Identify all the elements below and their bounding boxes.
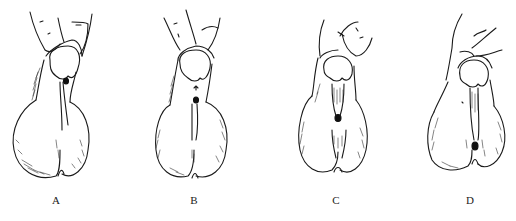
- panel-label-d: D: [460, 194, 480, 206]
- panel-b-drawing: [130, 0, 260, 190]
- panel-d: D: [386, 0, 516, 221]
- panel-c: C: [260, 0, 390, 221]
- panel-label-b: B: [184, 194, 204, 206]
- panel-a: A: [0, 0, 130, 221]
- panel-d-drawing: [386, 0, 516, 190]
- panel-a-drawing: [0, 0, 130, 190]
- panel-label-c: C: [326, 194, 346, 206]
- panel-label-a: A: [46, 194, 66, 206]
- panel-b: B: [130, 0, 260, 221]
- panel-c-drawing: [260, 0, 390, 190]
